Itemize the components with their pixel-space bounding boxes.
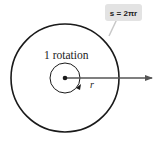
rotation-label: 1 rotation: [44, 49, 89, 61]
formula-label: s = 2πr: [110, 9, 137, 18]
center-point: [63, 76, 68, 81]
callout-leader-line: [109, 19, 117, 36]
rotation-diagram: 1 rotation r s = 2πr: [0, 0, 163, 144]
radius-label: r: [90, 79, 94, 90]
